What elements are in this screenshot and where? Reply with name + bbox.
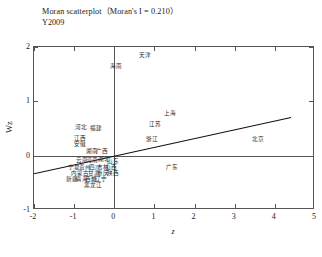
y-axis-tick (309, 47, 313, 48)
data-point-label: 浙江 (146, 137, 158, 143)
x-axis-tick (195, 204, 196, 208)
data-point-label: 陕西 (107, 171, 119, 177)
x-axis-tick (275, 47, 276, 51)
chart-title: Moran scatterplot（Moran's I = 0.210） (42, 7, 178, 17)
y-axis-tick (309, 101, 313, 102)
plot-area: 天津海南上海江苏河北福建江西浙江北京安徽湖南广西云南河南湖北山东广东宁夏贵州四川… (33, 46, 314, 209)
x-tick-label: 4 (272, 212, 276, 221)
x-axis-tick (275, 204, 276, 208)
y-axis-tick (309, 156, 313, 157)
y-axis-label: Wz (4, 121, 14, 133)
data-point-label: 海南 (110, 64, 122, 70)
y-axis-tick (34, 156, 38, 157)
y-tick-label: 2 (26, 42, 30, 51)
x-axis-tick (114, 204, 115, 208)
x-axis-tick (235, 204, 236, 208)
chart-subtitle: Y2009 (42, 18, 178, 28)
data-point-label: 天津 (139, 53, 151, 59)
y-axis-tick (34, 101, 38, 102)
x-axis-tick (235, 47, 236, 51)
data-point-label: 安徽 (74, 142, 86, 148)
moran-scatterplot-figure: Moran scatterplot（Moran's I = 0.210） Y20… (0, 0, 322, 257)
x-axis-tick (74, 204, 75, 208)
x-axis-tick (195, 47, 196, 51)
chart-title-block: Moran scatterplot（Moran's I = 0.210） Y20… (42, 7, 178, 29)
y-tick-label: 0 (26, 150, 30, 159)
data-point-label: 北京 (252, 137, 264, 143)
x-tick-label: 3 (232, 212, 236, 221)
y-tick-label: -1 (23, 205, 30, 214)
x-axis-tick (74, 47, 75, 51)
data-point-label: 广东 (166, 165, 178, 171)
x-tick-label: 2 (192, 212, 196, 221)
x-tick-label: -1 (70, 212, 77, 221)
y-axis-tick (34, 47, 38, 48)
data-point-label: 广西 (96, 150, 108, 156)
plot-inner: 天津海南上海江苏河北福建江西浙江北京安徽湖南广西云南河南湖北山东广东宁夏贵州四川… (34, 47, 313, 208)
x-tick-label: 0 (111, 212, 115, 221)
vertical-reference-line (114, 47, 115, 208)
x-tick-label: 5 (312, 212, 316, 221)
data-point-label: 河南 (86, 158, 98, 164)
x-axis-label: z (171, 227, 174, 236)
data-point-label: 福建 (90, 126, 102, 132)
data-point-label: 黑龙江 (84, 183, 102, 189)
x-axis-tick (114, 47, 115, 51)
x-axis-tick (154, 47, 155, 51)
x-axis-tick (34, 204, 35, 208)
x-axis-tick (154, 204, 155, 208)
data-point-label: 江苏 (149, 122, 161, 128)
x-tick-label: -2 (30, 212, 37, 221)
y-tick-label: 1 (26, 96, 30, 105)
data-point-label: 河北 (75, 125, 87, 131)
data-point-label: 上海 (164, 111, 176, 117)
x-tick-label: 1 (151, 212, 155, 221)
